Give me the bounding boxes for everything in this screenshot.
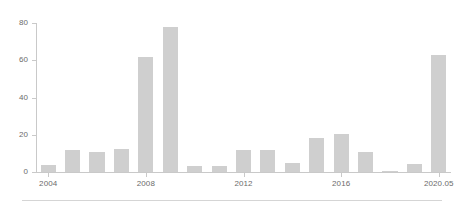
bar-chart: 020406080 20042008201220162020.05 (0, 0, 457, 212)
x-tick-mark (48, 172, 49, 177)
bar (358, 152, 373, 172)
bar (89, 152, 104, 172)
x-tick-mark (439, 172, 440, 177)
bar (187, 166, 202, 172)
x-tick-mark (146, 172, 147, 177)
bar (431, 55, 446, 172)
x-tick-label: 2008 (137, 180, 155, 188)
x-tick-label: 2020.05 (424, 180, 454, 188)
bar (114, 149, 129, 172)
bar (212, 166, 227, 172)
bar (382, 171, 397, 172)
x-tick-label: 2004 (39, 180, 57, 188)
bar-series (0, 0, 457, 172)
x-tick-mark (244, 172, 245, 177)
bar (309, 138, 324, 172)
bar (236, 150, 251, 172)
bar (285, 163, 300, 172)
footer-divider (22, 200, 442, 201)
bar (334, 134, 349, 172)
bar (41, 165, 56, 172)
bar (260, 150, 275, 172)
bar (65, 150, 80, 172)
bar (407, 164, 422, 172)
bar (163, 27, 178, 172)
x-tick-label: 2012 (234, 180, 252, 188)
bar (138, 57, 153, 172)
x-tick-label: 2016 (332, 180, 350, 188)
x-tick-mark (341, 172, 342, 177)
